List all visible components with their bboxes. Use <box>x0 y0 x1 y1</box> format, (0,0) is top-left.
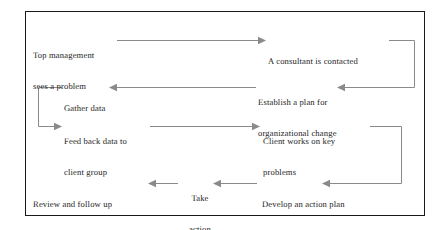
arrowhead-to-gather-data <box>109 84 117 91</box>
node-take-action-line1: Take <box>180 193 220 203</box>
node-develop-action-plan-line1: Develop an action plan <box>262 199 345 209</box>
node-review-follow-up-line1: Review and follow up <box>33 199 112 209</box>
arrowhead-to-review-follow-up <box>148 180 156 187</box>
node-client-works-line2: problems <box>263 167 335 177</box>
arrowhead-to-consultant <box>258 37 266 44</box>
node-take-action-line2: action <box>180 224 220 230</box>
node-top-management-line1: Top management <box>33 50 94 60</box>
connector-client-works-to-develop-plan <box>330 127 402 184</box>
node-feed-back-data-line2: client group <box>64 167 127 177</box>
node-gather-data-line1: Gather data <box>64 103 106 113</box>
node-establish-plan-line1: Establish a plan for <box>258 97 337 107</box>
flow-diagram: Top management sees a problem A consulta… <box>0 0 446 230</box>
node-review-follow-up: Review and follow up <box>33 178 112 230</box>
node-feed-back-data-line1: Feed back data to <box>64 136 127 146</box>
node-client-works-line1: Client works on key <box>263 136 335 146</box>
node-develop-action-plan: Develop an action plan <box>262 178 345 230</box>
node-take-action: Take action <box>180 172 220 230</box>
node-consultant-contacted-line1: A consultant is contacted <box>268 56 358 66</box>
arrowhead-to-feed-back-data <box>54 123 62 130</box>
